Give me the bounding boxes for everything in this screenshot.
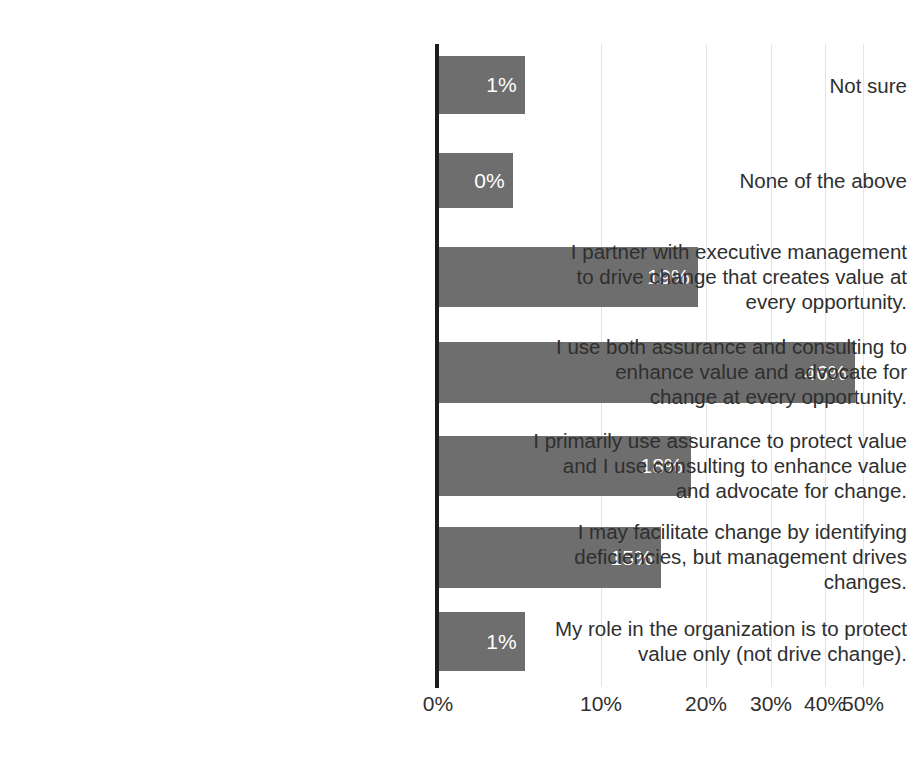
category-label: I primarily use assurance to protect val…: [498, 428, 922, 503]
category-label: I partner with executive management to d…: [498, 239, 922, 314]
x-tick-label: 30%: [750, 692, 792, 716]
category-label: None of the above: [498, 168, 922, 193]
bar-chart: 1%0%19%46%18%15%1% Not sureNone of the a…: [0, 0, 922, 758]
x-tick-label: 10%: [580, 692, 622, 716]
category-label: Not sure: [498, 73, 922, 98]
category-label: I use both assurance and consulting to e…: [498, 334, 922, 409]
y-axis-line: [435, 44, 439, 688]
chart-title: [0, 0, 922, 2]
x-tick-label: 40%: [804, 692, 846, 716]
category-label: I may facilitate change by identifying d…: [498, 519, 922, 594]
x-tick-label: 20%: [685, 692, 727, 716]
x-tick-label: 0%: [423, 692, 453, 716]
x-tick-label: 50%: [842, 692, 884, 716]
category-label: My role in the organization is to protec…: [498, 616, 922, 666]
